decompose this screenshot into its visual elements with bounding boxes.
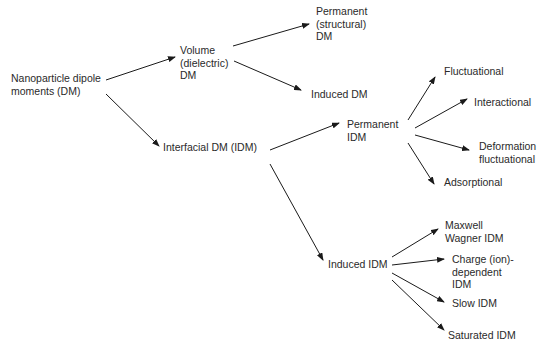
edges-layer [0,0,543,348]
node-volume-dm: Volume (dielectric) DM [180,44,228,82]
node-saturated-idm: Saturated IDM [448,329,516,342]
node-adsorptional: Adsorptional [444,176,502,189]
arrow-permanent-idm-to-interactional [415,99,467,128]
node-charge-dependent-idm: Charge (ion)- dependent IDM [452,253,514,291]
node-deformation-fluctuational: Deformation fluctuational [479,140,536,165]
arrow-interfacial-to-permanent-idm [270,123,339,150]
arrow-permanent-idm-to-adsorptional [408,143,434,184]
arrow-volume-to-induced-dm [234,61,301,90]
node-induced-dm: Induced DM [311,88,368,101]
node-induced-idm: Induced IDM [328,258,388,271]
arrow-induced-idm-to-charge-dependent [392,259,444,265]
arrow-permanent-idm-to-fluctuational [408,77,435,120]
node-slow-idm: Slow IDM [452,297,497,310]
arrow-volume-to-permanent-structural [233,24,309,46]
node-interfacial-dm: Interfacial DM (IDM) [163,141,257,154]
node-permanent-structural-dm: Permanent (structural) DM [316,5,367,43]
arrow-root-to-interfacial [106,94,159,146]
node-permanent-idm: Permanent IDM [347,118,398,143]
arrow-root-to-volume [106,57,175,80]
arrow-permanent-idm-to-deformation [415,135,469,150]
arrow-induced-idm-to-maxwell-wagner [392,229,438,257]
node-root: Nanoparticle dipole moments (DM) [11,72,101,97]
node-fluctuational: Fluctuational [444,65,504,78]
node-interactional: Interactional [474,96,531,109]
arrow-interfacial-to-induced-idm [270,164,323,260]
node-maxwell-wagner-idm: Maxwell Wagner IDM [445,219,504,244]
